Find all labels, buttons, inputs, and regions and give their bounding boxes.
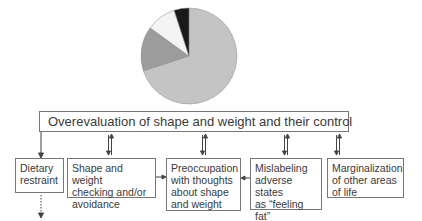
box-line: avoidance (72, 198, 152, 210)
box-mislabeling: Mislabeling adverse states as “feeling f… (250, 158, 322, 210)
arrow-to-dietary (39, 132, 44, 158)
pie-chart (141, 8, 237, 104)
arrow-mislabeling-to-preoccupation (241, 176, 250, 180)
box-dietary-restraint: Dietary restraint (15, 158, 64, 193)
double-arrow (283, 134, 290, 155)
box-line: checking and/or (72, 186, 152, 198)
box-line: and weight (171, 198, 237, 210)
double-arrow (107, 134, 114, 155)
box-line: of other areas (332, 174, 400, 186)
box-line: with thoughts (171, 174, 237, 186)
box-line: Shape and weight (72, 162, 152, 186)
arrow-checking-to-preoccupation (155, 175, 166, 179)
double-arrow (201, 134, 208, 155)
box-line: Marginalization (332, 162, 400, 174)
box-line: as “feeling (255, 198, 318, 210)
box-line: restraint (20, 174, 60, 186)
box-marginalization: Marginalization of other areas of life (327, 158, 404, 198)
box-shape-checking: Shape and weight checking and/or avoidan… (67, 158, 156, 198)
box-line: fat” (255, 210, 318, 221)
box-line: about shape (171, 186, 237, 198)
box-line: Preoccupation (171, 162, 237, 174)
box-preoccupation: Preoccupation with thoughts about shape … (166, 158, 241, 211)
box-line: Dietary (20, 162, 60, 174)
dotted-arrow-from-dietary (39, 195, 44, 218)
box-line: of life (332, 186, 400, 198)
box-line: adverse states (255, 174, 318, 198)
main-box-overevaluation: Overevaluation of shape and weight and t… (39, 111, 349, 132)
double-arrow (335, 134, 342, 155)
box-line: Mislabeling (255, 162, 318, 174)
